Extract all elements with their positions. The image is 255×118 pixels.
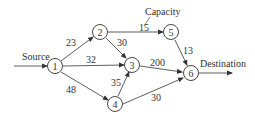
node-2: 2: [93, 25, 108, 40]
node-6: 6: [184, 66, 199, 81]
node-5: 5: [164, 25, 179, 40]
svg-text:2: 2: [98, 27, 103, 38]
svg-text:6: 6: [189, 68, 194, 79]
network-diagram: Source Destination Capacity 23 32 48 15 …: [0, 0, 255, 118]
edge-5-6: 13: [175, 40, 193, 65]
edge-1-3: 32: [63, 54, 124, 66]
svg-text:1: 1: [53, 61, 58, 72]
svg-text:3: 3: [130, 60, 135, 71]
edge-2-5: 15: [108, 22, 163, 33]
edge-capacity: 35: [111, 77, 121, 88]
edge-capacity: 48: [66, 84, 76, 95]
edge-capacity: 200: [150, 57, 165, 68]
edge-capacity: 23: [66, 37, 76, 48]
svg-text:4: 4: [113, 99, 118, 110]
edge-capacity: 30: [117, 37, 127, 48]
svg-text:5: 5: [169, 27, 174, 38]
node-3: 3: [125, 58, 140, 73]
edge-4-3: 35: [111, 72, 129, 96]
node-1: 1: [48, 59, 63, 74]
capacity-label: Capacity: [145, 6, 181, 17]
node-4: 4: [108, 97, 123, 112]
edge-4-6: 30: [123, 78, 183, 104]
edge-capacity: 32: [86, 54, 96, 65]
edge-2-3: 30: [106, 37, 127, 58]
edge-capacity: 30: [151, 92, 161, 103]
edge-capacity: 15: [139, 22, 149, 33]
edge-1-4: 48: [61, 72, 108, 100]
destination-label: Destination: [200, 58, 246, 69]
source-label: Source: [22, 51, 50, 62]
edge-capacity: 13: [183, 45, 193, 56]
edge-3-6: 200: [140, 57, 182, 72]
